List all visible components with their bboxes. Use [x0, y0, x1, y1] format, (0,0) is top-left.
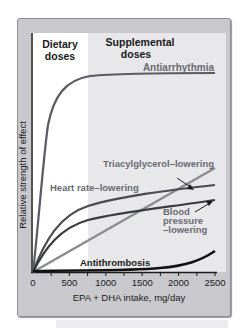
supplemental-label-1: Supplemental	[106, 36, 175, 48]
x-tick-label: 500	[61, 277, 77, 288]
antiarrhythmia-label: Antiarrhythmia	[143, 62, 215, 73]
dietary-label-2: doses	[45, 50, 76, 62]
x-axis-label: EPA + DHA intake, mg/day	[73, 292, 186, 303]
chart-plot: Dietary doses Supplemental doses Antiarr…	[0, 0, 242, 328]
triacylglycerol-label: Triacylglycerol–lowering	[103, 158, 214, 169]
bp-label-3: –lowering	[163, 224, 208, 235]
antithrombosis-label: Antithrombosis	[80, 257, 150, 268]
x-tick-label: 2500	[204, 277, 225, 288]
x-tick-label: 2000	[168, 277, 189, 288]
y-axis-label: Relative strength of effect	[17, 121, 28, 229]
x-tick-label: 1000	[95, 277, 116, 288]
supplemental-label-2: doses	[121, 48, 152, 60]
x-tick-label: 0	[30, 277, 35, 288]
x-tick-label: 1500	[132, 277, 153, 288]
dietary-label-1: Dietary	[42, 38, 78, 50]
heart-rate-label: Heart rate–lowering	[50, 182, 139, 193]
